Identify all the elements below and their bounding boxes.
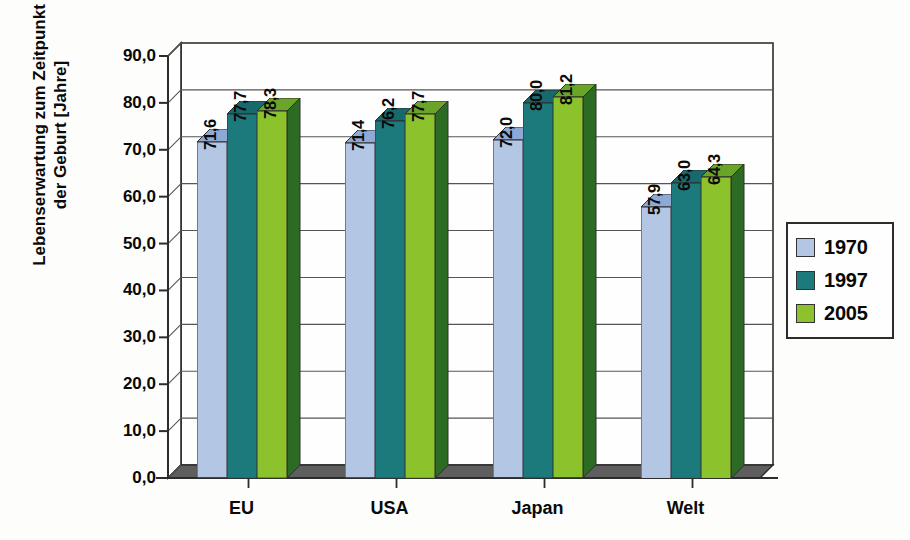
chart-legend: 197019972005 [786,222,894,339]
legend-item-1997[interactable]: 1997 [796,264,886,297]
legend-swatch-icon [796,238,815,257]
plot-bars-layer: 71,677,778,3EU71,476,277,7USA72,080,081,… [0,0,910,540]
bar-value-label: 80,0 [527,80,546,111]
bar-value-label: 78,3 [261,88,280,119]
x-axis-label-japan: Japan [473,498,603,519]
legend-item-1970[interactable]: 1970 [796,231,886,264]
bar-value-label: 71,4 [349,120,368,151]
bar-value-label: 64,3 [705,154,724,185]
legend-label: 1970 [824,236,868,259]
bar-value-label: 57,9 [645,184,664,215]
x-axis-label-usa: USA [325,498,455,519]
bar-usa-2005[interactable]: 77,7 [405,101,448,478]
x-axis-label-eu: EU [177,498,307,519]
bar-value-label: 63,0 [675,160,694,191]
bar-value-label: 77,7 [409,91,428,122]
bar-japan-2005[interactable]: 81,2 [553,84,596,478]
legend-item-2005[interactable]: 2005 [796,297,886,330]
bar-3d-faces [405,101,450,480]
bar-welt-2005[interactable]: 64,3 [701,164,744,478]
bar-value-label: 76,2 [379,98,398,129]
legend-swatch-icon [796,304,815,323]
bar-3d-faces [701,164,746,480]
bar-value-label: 72,0 [497,117,516,148]
bar-value-label: 77,7 [231,91,250,122]
legend-label: 2005 [824,302,868,325]
x-axis-label-welt: Welt [621,498,751,519]
legend-label: 1997 [824,269,868,292]
chart-container: Lebenserwartung zum Zeitpunkt der Geburt… [0,0,910,540]
bar-eu-2005[interactable]: 78,3 [257,98,300,478]
bar-3d-faces [257,98,302,480]
bar-value-label: 81,2 [557,74,576,105]
bar-3d-faces [553,84,598,480]
bar-value-label: 71,6 [201,119,220,150]
legend-swatch-icon [796,271,815,290]
